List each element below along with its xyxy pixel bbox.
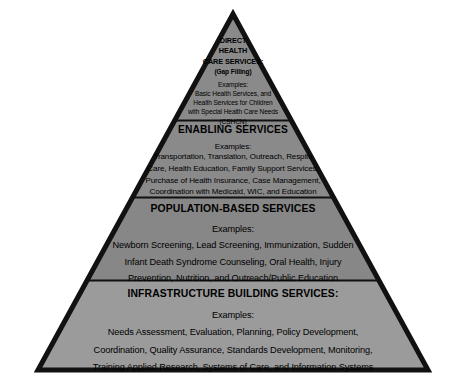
tier-3-examples-label: Examples: [58,224,408,235]
tier-4-body-line-3: Training Applied Research, Systems of Ca… [38,361,428,374]
tier-2-examples-label: Examples: [92,142,374,151]
tier-2-body-line-3: Purchase of Health Insurance, Case Manag… [92,176,374,187]
tier-3-body-line-2: Infant Death Syndrome Counseling, Oral H… [58,256,408,269]
tier-1-body-line-2: Health Services for Children [145,98,321,107]
tier-2-body-line-4: Coordination with Medicaid, WIC, and Edu… [92,187,374,198]
tier-4-body-line-2: Coordination, Quality Assurance, Standar… [38,344,428,357]
tier-2-heading: ENABLING SERVICES [92,124,374,136]
tier-2-body-line-1: Transportation, Translation, Outreach, R… [92,152,374,163]
tier-4-examples-label: Examples: [38,310,428,321]
tier-1-examples-label: Examples: [145,81,321,89]
tier-label-infrastructure-building-services: INFRASTRUCTURE BUILDING SERVICES: Exampl… [38,288,428,374]
tier-1-body-line-3: with Special Health Care Needs [145,107,321,116]
tier-4-heading: INFRASTRUCTURE BUILDING SERVICES: [38,288,428,300]
tier-label-enabling-services: ENABLING SERVICES Examples: Transportati… [92,124,374,198]
tier-3-heading: POPULATION-BASED SERVICES [58,203,408,215]
tier-1-heading-line-1: DIRECT [145,36,321,46]
tier-2-body-line-2: Care, Health Education, Family Support S… [92,164,374,175]
pyramid-diagram: DIRECT HEALTH CARE SERVICES: (Gap Fillin… [0,0,465,384]
tier-3-body-line-3: Prevention, Nutrition, and Outreach/Publ… [58,272,408,285]
tier-1-heading-line-2: HEALTH [145,46,321,56]
tier-1-body-line-1: Basic Health Services, and [145,89,321,98]
tier-label-population-based-services: POPULATION-BASED SERVICES Examples: Newb… [58,203,408,285]
tier-4-body-line-1: Needs Assessment, Evaluation, Planning, … [38,326,428,339]
tier-1-heading-line-3: CARE SERVICES: [145,57,321,67]
tier-1-subheading: (Gap Filling) [145,67,321,77]
tier-label-direct-health-care-services: DIRECT HEALTH CARE SERVICES: (Gap Fillin… [145,36,321,126]
tier-3-body-line-1: Newborn Screening, Lead Screening, Immun… [58,239,408,252]
